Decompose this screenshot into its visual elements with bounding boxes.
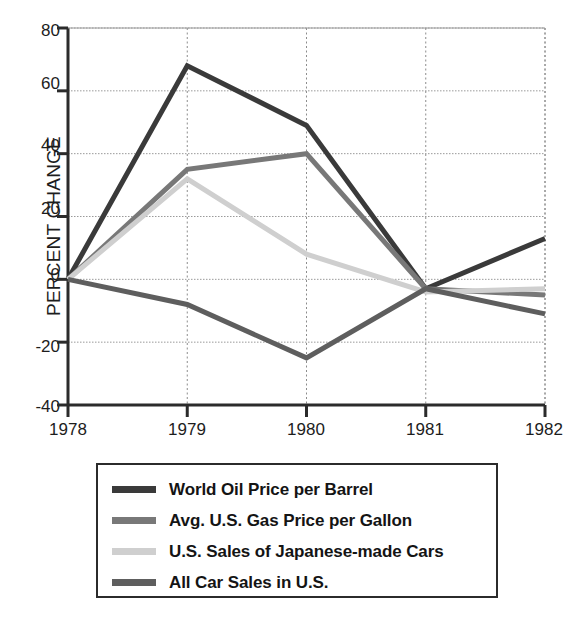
legend-item: U.S. Sales of Japanese-made Cars [98, 536, 496, 567]
legend-item: Avg. U.S. Gas Price per Gallon [98, 505, 496, 536]
legend-item-label: Avg. U.S. Gas Price per Gallon [169, 511, 412, 531]
legend-swatch-icon [112, 486, 156, 493]
legend-item-label: U.S. Sales of Japanese-made Cars [169, 542, 444, 562]
legend-swatch-icon [112, 579, 156, 586]
legend-item: All Car Sales in U.S. [98, 567, 496, 598]
legend-swatch-icon [112, 517, 156, 524]
legend-item: World Oil Price per Barrel [98, 474, 496, 505]
legend-item-label: World Oil Price per Barrel [169, 480, 373, 500]
legend-item-label: All Car Sales in U.S. [169, 573, 328, 593]
legend: World Oil Price per Barrel Avg. U.S. Gas… [96, 463, 498, 598]
legend-swatch-icon [112, 548, 156, 555]
chart-container: PERCENT CHANGE 80 60 40 20 0 -20 -40 197… [0, 0, 568, 623]
